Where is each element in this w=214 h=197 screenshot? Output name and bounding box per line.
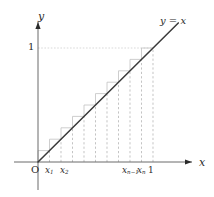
x-tick-label-1: x2 (60, 165, 69, 175)
eq-sign: = (166, 15, 181, 26)
x-tick-subscript: 1 (50, 169, 54, 175)
y-axis-arrow (35, 22, 40, 29)
x-tick-base: 1 (148, 165, 154, 175)
x-tick-label-3: xn (137, 165, 146, 175)
x-axis-arrow (185, 159, 192, 164)
figure-canvas: y x O 1 y = x x1x2xn−1xn1 (0, 0, 214, 197)
line-y-equals-x (38, 23, 178, 162)
x-tick-subscript: 2 (65, 169, 69, 175)
y-tick-label-1: 1 (28, 41, 34, 52)
curve-y-equals-x (38, 23, 178, 162)
x-tick-label-4: 1 (148, 165, 154, 175)
x-axis-label: x (199, 156, 205, 169)
line-equation-label: y = x (160, 15, 186, 26)
axes-group (14, 22, 192, 190)
x-tick-label-0: x1 (45, 165, 54, 175)
partition-dashed-group (50, 48, 154, 162)
y-axis-label: y (38, 10, 44, 23)
origin-label: O (31, 164, 39, 175)
x-tick-subscript: n (142, 169, 146, 175)
eq-rhs: x (180, 15, 186, 26)
